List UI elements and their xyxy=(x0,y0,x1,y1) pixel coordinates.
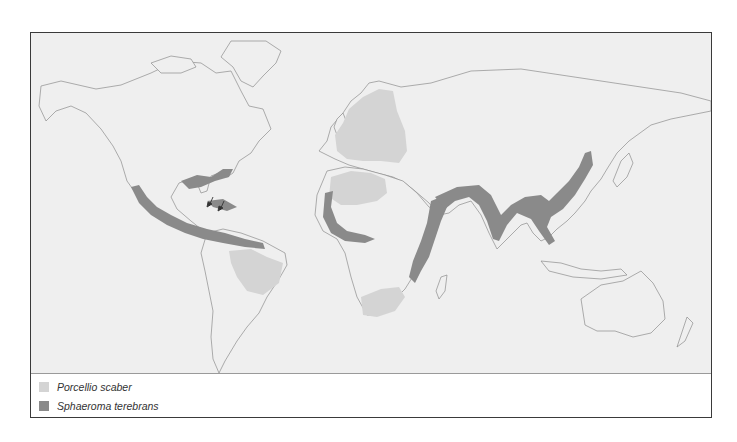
landmass-indonesia xyxy=(541,261,627,279)
legend-label: Sphaeroma terebrans xyxy=(57,400,159,412)
map-figure-frame: Porcellio scaber Sphaeroma terebrans xyxy=(30,32,712,418)
legend-label: Porcellio scaber xyxy=(57,381,132,393)
world-map-svg xyxy=(31,33,711,374)
landmass-japan xyxy=(613,153,633,187)
legend-item-porcellio-scaber: Porcellio scaber xyxy=(39,381,132,393)
legend-swatch-light xyxy=(39,382,49,392)
legend-swatch-dark xyxy=(39,401,49,411)
landmass-new-zealand xyxy=(677,317,693,347)
world-map xyxy=(31,33,711,374)
legend-item-sphaeroma-terebrans: Sphaeroma terebrans xyxy=(39,400,159,412)
map-legend: Porcellio scaber Sphaeroma terebrans xyxy=(31,374,711,418)
landmass-madagascar xyxy=(436,275,447,299)
landmass-australia xyxy=(581,271,665,337)
